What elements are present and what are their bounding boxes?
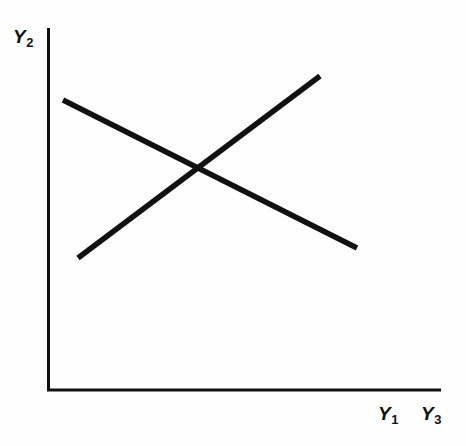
x-axis-label-secondary: Y3 (421, 404, 441, 423)
x-axis-label-primary-var: Y (378, 403, 391, 424)
x-axis-label-secondary-var: Y (421, 403, 434, 424)
y-axis-label-subscript: 2 (26, 35, 33, 50)
chart-figure: Y2 Y1 Y3 (0, 0, 466, 446)
x-axis-label-primary-subscript: 1 (391, 412, 398, 427)
plot-canvas (0, 0, 466, 446)
x-axis-label-primary: Y1 (378, 404, 398, 423)
canvas-background (0, 0, 466, 446)
x-axis-label-secondary-subscript: 3 (434, 412, 441, 427)
y-axis-label: Y2 (13, 27, 33, 46)
y-axis-label-var: Y (13, 26, 26, 47)
